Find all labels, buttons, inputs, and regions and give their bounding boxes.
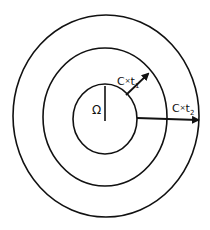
ct2-label: C×t2	[172, 102, 194, 117]
arrow-ct2	[137, 118, 198, 120]
omega-label: Ω	[92, 103, 101, 117]
wavefront-diagram: Ω C×t1 C×t2	[0, 0, 210, 230]
ct1-label: C×t1	[117, 75, 139, 90]
